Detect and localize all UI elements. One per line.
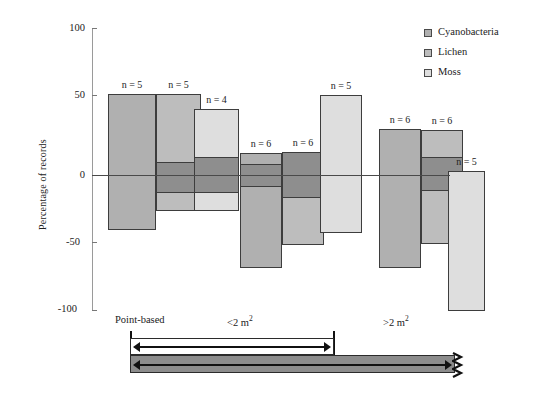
y-tick-label-0: 0 xyxy=(51,169,85,180)
bar-n-label-2: n = 5 xyxy=(156,79,201,90)
y-tick-label-100: 100 xyxy=(51,22,85,33)
zero-baseline xyxy=(92,175,450,176)
bar-moss-2 xyxy=(320,95,362,233)
group-label-small-plot: <2 m2 xyxy=(227,314,253,328)
bar-n-label-1: n = 5 xyxy=(108,79,156,90)
group-label-large-plot-exponent: 2 xyxy=(405,314,409,323)
schematic-upper-arrow-head-right xyxy=(324,342,331,352)
legend-label-lichen: Lichen xyxy=(438,46,467,57)
group-label-small-plot-exponent: 2 xyxy=(249,314,253,323)
y-axis-label: Percentage of records xyxy=(37,139,48,230)
group-label-point-based: Point-based xyxy=(115,314,165,325)
figure-canvas: Percentage of records 100 50 0 -50 -100 … xyxy=(0,0,545,393)
y-tick-mark-100 xyxy=(92,28,97,29)
bar-n-label-6: n = 5 xyxy=(320,80,362,91)
legend-swatch-moss xyxy=(424,69,432,77)
bar-n-label-9: n = 5 xyxy=(448,156,485,167)
bar-n-label-8: n = 6 xyxy=(421,115,463,126)
group-label-small-plot-text: <2 m xyxy=(227,317,249,328)
bar-n-label-3: n = 4 xyxy=(194,94,239,105)
group-label-large-plot-text: >2 m xyxy=(383,317,405,328)
y-tick-mark-neg50 xyxy=(92,242,97,243)
y-tick-label-50: 50 xyxy=(51,89,85,100)
bar-n-label-4: n = 6 xyxy=(240,138,282,149)
legend-label-cyanobacteria: Cyanobacteria xyxy=(438,26,499,37)
bar-cyanobacteria-1 xyxy=(108,94,156,230)
y-axis-line xyxy=(92,28,93,311)
schematic-upper-arrow-head-left xyxy=(133,342,140,352)
y-tick-mark-neg100 xyxy=(92,310,97,311)
bar-cyanobacteria-3 xyxy=(379,129,421,268)
schematic-lower-arrow-line xyxy=(139,364,449,366)
y-tick-label-neg100: -100 xyxy=(43,303,77,314)
legend-swatch-cyanobacteria xyxy=(424,29,432,37)
bar-n-label-7: n = 6 xyxy=(379,114,421,125)
schematic-lower-arrow-head-right xyxy=(445,360,452,370)
bar-n-label-5: n = 6 xyxy=(282,137,324,148)
schematic-zigzag-break-icon xyxy=(452,352,466,378)
schematic-lower-arrow-head-left xyxy=(133,360,140,370)
legend-label-moss: Moss xyxy=(438,66,461,77)
group-label-large-plot: >2 m2 xyxy=(383,314,409,328)
y-tick-label-neg50: -50 xyxy=(46,236,80,247)
legend-swatch-lichen xyxy=(424,49,432,57)
schematic-upper-arrow-line xyxy=(139,346,325,348)
bar-moss-3 xyxy=(448,171,485,311)
y-tick-mark-50 xyxy=(92,95,97,96)
